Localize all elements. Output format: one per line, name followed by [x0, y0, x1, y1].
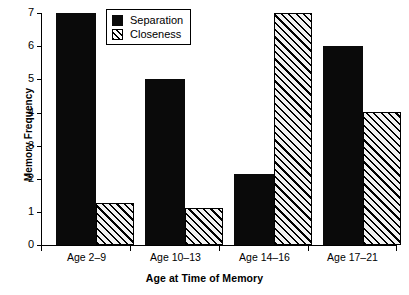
y-tick-label-2: 2 [18, 173, 34, 184]
y-tick-label-1: 1 [18, 206, 34, 217]
x-axis-title: Age at Time of Memory [0, 272, 409, 284]
y-tick-label-7: 7 [18, 7, 34, 18]
legend-label-closeness: Closeness [130, 28, 181, 40]
bar-separation-age-17-21 [323, 46, 363, 245]
bar-separation-age-2-9 [56, 13, 96, 245]
bar-separation-age-14-16 [234, 174, 274, 245]
y-axis-tick-labels: 7 6 5 4 3 2 1 0 [14, 0, 34, 295]
x-tick-label-age-2-9: Age 2–9 [42, 251, 131, 263]
bar-closeness-age-10-13 [185, 208, 223, 245]
chart-legend: Separation Closeness [106, 9, 191, 45]
bar-closeness-age-14-16 [274, 13, 312, 245]
legend-item-separation: Separation [112, 13, 183, 27]
bar-separation-age-10-13 [145, 79, 185, 245]
plot-area [41, 13, 396, 245]
y-tick-label-3: 3 [18, 140, 34, 151]
bar-closeness-age-2-9 [96, 203, 134, 245]
x-tick-label-age-14-16: Age 14–16 [220, 251, 309, 263]
x-tick-label-age-17-21: Age 17–21 [308, 251, 397, 263]
hatched-square-icon [112, 29, 123, 40]
y-tick-label-5: 5 [18, 73, 34, 84]
legend-label-separation: Separation [130, 14, 183, 26]
solid-square-icon [112, 15, 123, 26]
y-tick-label-0: 0 [18, 239, 34, 250]
legend-item-closeness: Closeness [112, 27, 183, 41]
y-tick-label-6: 6 [18, 40, 34, 51]
bars-layer [42, 13, 397, 245]
y-tick-label-4: 4 [18, 107, 34, 118]
bar-chart: Memory Frequency 7 6 5 4 3 2 1 0 [0, 0, 409, 295]
x-tick-label-age-10-13: Age 10–13 [131, 251, 220, 263]
bar-closeness-age-17-21 [363, 112, 401, 245]
